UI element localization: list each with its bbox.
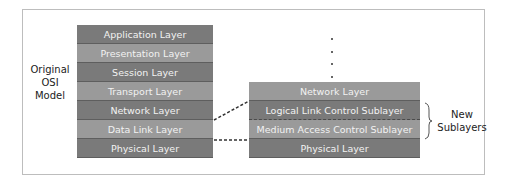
label-line: Sublayers <box>432 121 492 134</box>
connector-lines <box>0 0 508 182</box>
label-line: New <box>432 108 492 121</box>
new-sublayers-label: New Sublayers <box>432 108 492 134</box>
brace-icon <box>425 103 432 139</box>
